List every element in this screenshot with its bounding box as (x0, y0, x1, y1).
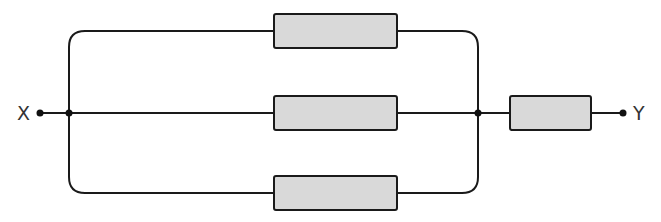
resistor-bottom (274, 176, 397, 210)
resistor-top (274, 14, 397, 48)
terminal-y-label: Y (633, 104, 645, 123)
terminal-y-dot (620, 110, 627, 117)
circuit-diagram (0, 0, 661, 222)
terminal-x-label: X (17, 104, 30, 123)
junction-left-dot (66, 110, 73, 117)
resistor-middle (274, 96, 397, 130)
junction-right-dot (475, 110, 482, 117)
terminal-x-dot (37, 110, 44, 117)
resistor-series (510, 96, 591, 130)
